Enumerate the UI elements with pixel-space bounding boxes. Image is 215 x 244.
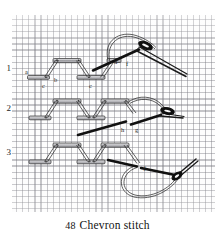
row-3-stitches	[29, 143, 140, 164]
row-2-stitches	[29, 99, 136, 120]
figure-chevron-stitch: a b c c d f h g j 1 2 3 48Chevron stitch	[0, 0, 215, 244]
row-3-thread-and-needle	[108, 159, 198, 198]
needle-row-2	[160, 106, 184, 118]
label-a: a	[25, 68, 28, 75]
label-j: j	[143, 164, 146, 171]
label-c-2: c	[89, 82, 92, 89]
row-number-3: 3	[1, 148, 11, 157]
row2-bottom-bar-2	[77, 116, 105, 120]
label-h: h	[121, 126, 125, 133]
needle-row-1	[136, 39, 187, 76]
label-c-1: c	[42, 82, 45, 89]
row-1-thread-and-needle	[93, 34, 187, 76]
row-number-1: 1	[1, 64, 11, 73]
row-number-2: 2	[1, 104, 11, 113]
stitch-illustration: a b c c d f h g j	[0, 0, 215, 244]
row3-bottom-bar-2	[77, 160, 105, 164]
needle-row-3	[171, 159, 198, 182]
caption-number: 48	[65, 220, 75, 231]
caption-title: Chevron stitch	[80, 219, 150, 231]
label-g: g	[135, 126, 139, 133]
figure-caption: 48Chevron stitch	[0, 219, 215, 231]
label-b: b	[54, 76, 57, 83]
label-f: f	[126, 60, 129, 67]
row-1-stitches	[28, 59, 122, 80]
